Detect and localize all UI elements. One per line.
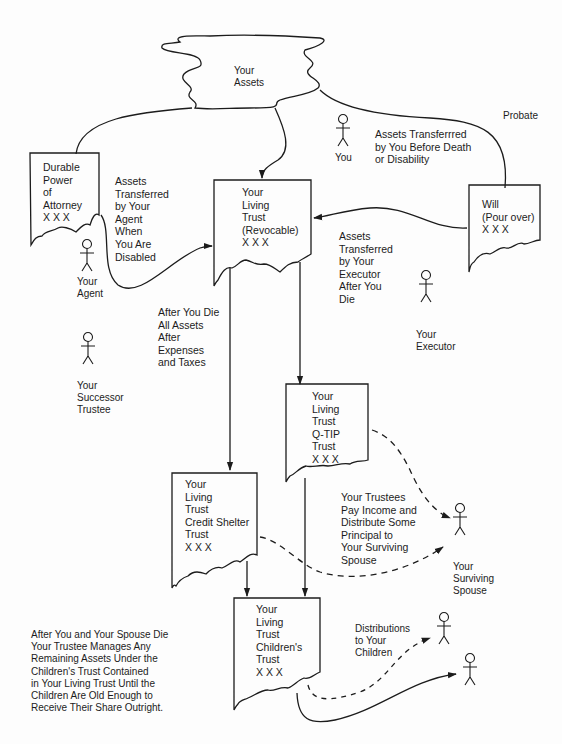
will-doc-label: Will (Pour over) X X X xyxy=(482,198,535,236)
after-you-die-label: After You Die All Assets After Expenses … xyxy=(158,306,219,369)
person-icon-you xyxy=(336,115,350,147)
person-icon-agent xyxy=(80,240,94,272)
arrow-to-child-2 xyxy=(297,674,456,722)
arrow-will-to-living-trust xyxy=(314,208,467,228)
connector-assets-to-power xyxy=(76,108,192,154)
probate-label: Probate xyxy=(503,110,538,122)
person-label-surviving-spouse: Your Surviving Spouse xyxy=(453,561,494,598)
durable-power-doc-label: Durable Power of Attorney X X X xyxy=(43,161,82,224)
living-trust-flow-diagram: Your Assets Durable Power of Attorney X … xyxy=(0,0,562,744)
distributions-to-children-label: Distributions to Your Children xyxy=(355,623,410,660)
living-trust-doc-label: Your Living Trust (Revocable) X X X xyxy=(242,186,299,249)
person-icon-executor xyxy=(419,271,433,303)
person-icon-surviving-spouse xyxy=(453,504,467,536)
arrow-assets-to-living-trust xyxy=(262,108,286,178)
person-icon-child-2 xyxy=(463,654,477,686)
person-icon-successor-trustee xyxy=(81,333,95,365)
credit-shelter-trust-doc-label: Your Living Trust Credit Shelter Trust X… xyxy=(185,478,249,554)
person-label-agent: Your Agent xyxy=(77,276,103,300)
trustees-pay-income-label: Your Trustees Pay Income and Distribute … xyxy=(341,491,417,567)
childrens-trust-doc-label: Your Living Trust Children's Trust X X X xyxy=(256,603,302,679)
person-label-executor: Your Executor xyxy=(416,329,455,353)
qtip-trust-doc-label: Your Living Trust Q-TIP Trust X X X xyxy=(312,390,340,466)
assets-transferred-by-you-label: Assets Transferrred by You Before Death … xyxy=(375,128,471,166)
assets-transferred-by-executor-label: Assets Transferred by Your Executor Afte… xyxy=(339,230,393,306)
assets-cloud-label: Your Assets xyxy=(234,65,264,89)
person-label-successor-trustee: Your Successor Trustee xyxy=(77,380,124,417)
person-label-you: You xyxy=(335,152,352,164)
assets-transferred-by-agent-label: Assets Transferred by Your Agent When Yo… xyxy=(115,175,169,263)
after-you-and-spouse-die-label: After You and Your Spouse Die Your Trust… xyxy=(31,629,168,714)
person-icon-child-1 xyxy=(437,613,451,645)
